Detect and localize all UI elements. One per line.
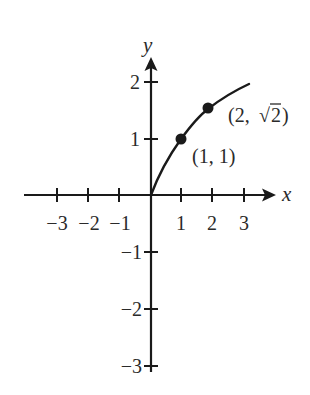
sqrt-graph: −3 −2 −1 1 2 3 2 1 −1 −2 −3 x y (1, 1) (… xyxy=(0,0,310,395)
x-tick-label: −2 xyxy=(78,212,99,234)
x-tick-label: −3 xyxy=(46,212,67,234)
x-tick-label: 3 xyxy=(239,212,249,234)
x-tick-label: −1 xyxy=(109,212,130,234)
x-axis-label: x xyxy=(281,182,292,206)
svg-text:2: 2 xyxy=(271,104,281,126)
point-1-1 xyxy=(176,134,187,145)
y-tick-label: 1 xyxy=(130,128,140,150)
y-tick-label: −2 xyxy=(121,298,142,320)
y-tick-label: −1 xyxy=(121,241,142,263)
x-tick-label: 1 xyxy=(176,212,186,234)
sqrt-curve xyxy=(151,84,249,195)
point-2-sqrt2 xyxy=(203,103,214,114)
y-tick-label: −3 xyxy=(121,355,142,377)
point-2-sqrt2-label: (2, √ 2 ) xyxy=(228,104,289,127)
point-1-1-label: (1, 1) xyxy=(192,145,235,168)
y-tick-label: 2 xyxy=(130,71,140,93)
y-axis-label: y xyxy=(141,33,153,57)
svg-text:): ) xyxy=(282,104,289,127)
svg-text:(2,: (2, xyxy=(228,104,250,127)
x-tick-label: 2 xyxy=(207,212,217,234)
sqrt-icon: √ xyxy=(259,104,270,126)
